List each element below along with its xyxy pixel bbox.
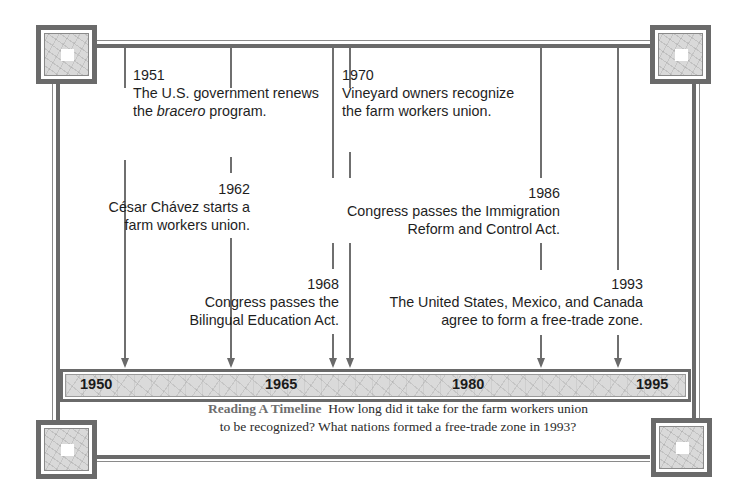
corner-ornament-bottom-left xyxy=(36,420,97,479)
event-1962-line1: César Chávez starts a xyxy=(109,198,250,216)
arrow-1951-icon xyxy=(121,358,129,368)
scale-label-1965: 1965 xyxy=(265,376,297,392)
timeline-bar xyxy=(60,369,691,402)
scale-label-1950: 1950 xyxy=(80,376,112,392)
corner-ornament-top-left xyxy=(36,25,97,84)
arrow-1993-icon xyxy=(614,358,622,368)
connector-1970-mid xyxy=(349,152,351,178)
event-1962-year: 1962 xyxy=(109,180,250,198)
event-1993-line2: agree to form a free-trade zone. xyxy=(389,311,643,329)
connector-1968-mid xyxy=(332,243,334,269)
event-1986-line1: Congress passes the Immigration xyxy=(347,202,560,220)
connector-1993-bottom xyxy=(617,335,619,359)
frame-left-thin xyxy=(52,84,53,420)
caption-line2: to be recognized? What nations formed a … xyxy=(100,418,696,436)
event-1951-line1: The U.S. government renews xyxy=(133,84,319,102)
frame-top-thick xyxy=(97,44,650,48)
connector-1968-top xyxy=(332,48,334,178)
event-1970-year: 1970 xyxy=(342,66,514,84)
frame-right-thin xyxy=(699,84,700,418)
connector-1986-top xyxy=(540,48,542,178)
frame-right-thick xyxy=(692,84,696,418)
connector-1968-bottom xyxy=(332,334,334,359)
connector-1951-top xyxy=(124,48,126,88)
event-1968-line2: Bilingual Education Act. xyxy=(190,311,339,329)
event-1951-year: 1951 xyxy=(133,66,319,84)
arrow-1970-icon xyxy=(346,358,354,368)
event-1986-year: 1986 xyxy=(347,184,560,202)
event-1951-italic: bracero xyxy=(157,103,205,119)
connector-1986-mid xyxy=(540,243,542,270)
arrow-1986-icon xyxy=(537,358,545,368)
event-1986-line2: Reform and Control Act. xyxy=(347,220,560,238)
event-1993: 1993 The United States, Mexico, and Cana… xyxy=(389,275,643,329)
caption-heading: Reading A Timeline xyxy=(208,401,322,416)
event-1970: 1970 Vineyard owners recognize the farm … xyxy=(342,66,514,120)
frame-bottom-thin xyxy=(97,461,650,462)
event-1962: 1962 César Chávez starts a farm workers … xyxy=(109,180,250,234)
event-1951: 1951 The U.S. government renews the brac… xyxy=(133,66,319,120)
caption-question1: How long did it take for the farm worker… xyxy=(328,401,588,416)
arrow-1962-icon xyxy=(227,358,235,368)
connector-1970-bottom xyxy=(349,243,351,359)
event-1968: 1968 Congress passes the Bilingual Educa… xyxy=(190,275,339,329)
scale-label-1980: 1980 xyxy=(452,376,484,392)
caption: Reading A Timeline How long did it take … xyxy=(100,400,696,436)
event-1970-line2: the farm workers union. xyxy=(342,102,514,120)
connector-1962-mid xyxy=(230,157,232,173)
caption-line1: Reading A Timeline How long did it take … xyxy=(100,400,696,418)
event-1993-line1: The United States, Mexico, and Canada xyxy=(389,293,643,311)
event-1968-year: 1968 xyxy=(190,275,339,293)
arrow-1968-icon xyxy=(329,358,337,368)
timeline-bar-fill xyxy=(65,374,686,397)
event-1951-line2-pre: the xyxy=(133,103,157,119)
event-1986: 1986 Congress passes the Immigration Ref… xyxy=(347,184,560,238)
event-1968-line1: Congress passes the xyxy=(190,293,339,311)
event-1993-year: 1993 xyxy=(389,275,643,293)
event-1970-line1: Vineyard owners recognize xyxy=(342,84,514,102)
corner-ornament-top-right xyxy=(650,25,711,84)
frame-top-thin xyxy=(97,40,650,41)
event-1951-line2-post: program. xyxy=(205,103,266,119)
connector-1986-bottom xyxy=(540,335,542,359)
scale-label-1995: 1995 xyxy=(636,376,668,392)
connector-1993-top xyxy=(617,48,619,270)
event-1962-line2: farm workers union. xyxy=(109,216,250,234)
frame-bottom-thick xyxy=(97,455,650,459)
event-1951-line2: the bracero program. xyxy=(133,102,319,120)
